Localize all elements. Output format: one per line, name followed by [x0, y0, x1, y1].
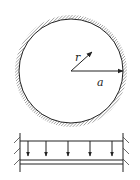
label-a: a — [97, 76, 104, 89]
figure-canvas: r a — [0, 0, 140, 180]
load-arrows — [28, 141, 112, 156]
clamped-strip — [14, 133, 129, 172]
label-r: r — [75, 51, 81, 64]
left-wall-hatching — [14, 137, 20, 165]
right-wall-hatching — [123, 137, 129, 165]
clamped-circle: r a — [15, 15, 127, 127]
